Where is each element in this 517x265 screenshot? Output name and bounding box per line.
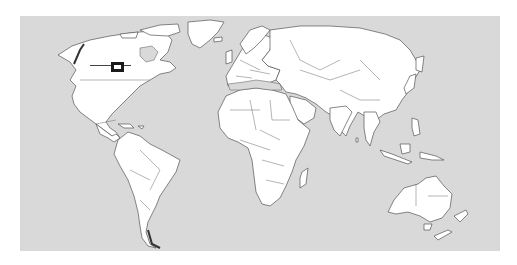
south-america (114, 132, 180, 248)
world-map-svg (20, 16, 500, 251)
north-america (58, 31, 176, 138)
caribbean (118, 124, 144, 129)
kamchatka (416, 56, 424, 72)
indonesia (380, 144, 444, 164)
madagascar (300, 168, 308, 188)
tasmania (424, 224, 432, 230)
iceland (214, 37, 222, 42)
united-kingdom (226, 50, 232, 64)
sri-lanka (356, 138, 358, 142)
greenland (188, 20, 224, 48)
world-map[interactable] (20, 16, 500, 251)
australia (388, 176, 452, 222)
philippines (412, 118, 420, 136)
location-marker[interactable] (111, 62, 124, 72)
location-marker-inner (114, 65, 121, 69)
indochina (364, 112, 380, 146)
